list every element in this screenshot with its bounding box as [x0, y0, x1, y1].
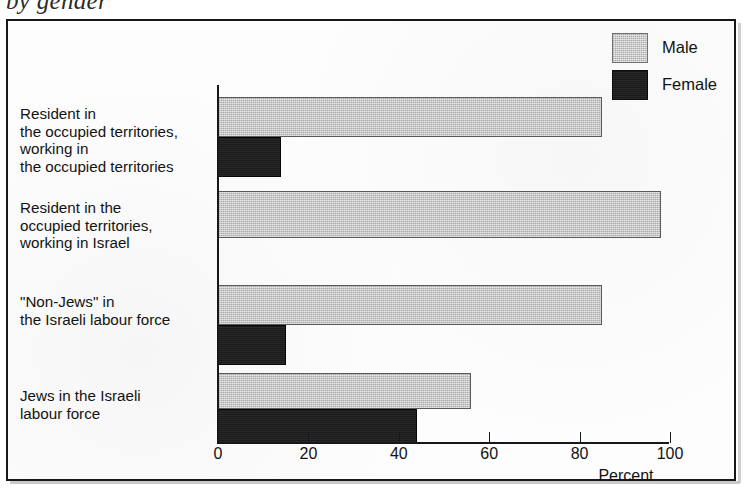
- plot-area: Resident in the occupied territories, wo…: [8, 21, 738, 479]
- x-axis-title: Percent: [578, 467, 674, 485]
- chart-figure-frame: Male Female Resident in the occupied ter…: [6, 19, 736, 481]
- x-tick-label-20: 20: [286, 445, 330, 463]
- x-tick-mark-80: [580, 432, 581, 443]
- frame-shadow-right: [738, 23, 741, 483]
- x-tick-label-100: 100: [648, 445, 692, 463]
- category-label-4: Jews in the Israeli labour force: [20, 387, 218, 422]
- x-tick-label-80: 80: [558, 445, 602, 463]
- bar-male-2[interactable]: [218, 191, 661, 238]
- x-tick-mark-0: [218, 432, 219, 443]
- bar-male-1[interactable]: [218, 97, 602, 137]
- bar-male-3[interactable]: [218, 285, 602, 325]
- x-tick-label-60: 60: [467, 445, 511, 463]
- x-tick-mark-40: [399, 432, 400, 443]
- category-label-1: Resident in the occupied territories, wo…: [20, 105, 218, 175]
- x-tick-label-0: 0: [196, 445, 240, 463]
- category-label-3: "Non-Jews" in the Israeli labour force: [20, 293, 218, 328]
- bar-female-1[interactable]: [218, 137, 281, 177]
- figure-caption-clip: by gender: [0, 0, 744, 17]
- x-tick-mark-60: [489, 432, 490, 443]
- bar-female-3[interactable]: [218, 325, 286, 365]
- figure-caption: by gender: [6, 0, 108, 15]
- bar-male-4[interactable]: [218, 373, 471, 409]
- y-axis-line: [217, 85, 219, 443]
- x-axis-line: [217, 442, 669, 444]
- category-label-2: Resident in the occupied territories, wo…: [20, 199, 218, 252]
- x-tick-label-40: 40: [377, 445, 421, 463]
- bar-female-4[interactable]: [218, 409, 417, 443]
- x-tick-mark-20: [308, 432, 309, 443]
- x-tick-mark-100: [670, 432, 671, 443]
